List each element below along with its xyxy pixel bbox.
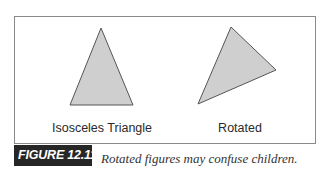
isosceles-triangle-label: Isosceles Triangle (52, 121, 152, 135)
rotated-triangle-label: Rotated (218, 121, 262, 135)
isosceles-triangle-shape (70, 28, 133, 105)
figure-caption: Rotated figures may confuse children. (101, 151, 298, 167)
rotated-triangle-shape (198, 27, 276, 104)
figure-number-tag: FIGURE 12.11 (14, 145, 92, 166)
